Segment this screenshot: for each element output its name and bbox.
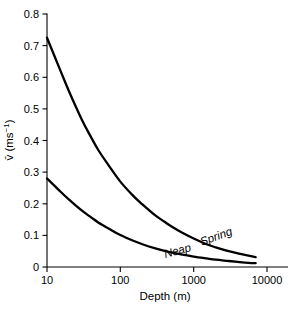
y-tick-label-6: 0.6 [24,71,39,83]
y-tick-label-1: 0.1 [24,229,39,241]
x-tick-label-10000: 10000 [252,274,283,286]
series-line-spring [47,38,256,257]
velocity-depth-chart: 0.8 0.7 0.6 0.5 0.4 0.3 0.2 0.1 0 10 100… [0,0,304,310]
y-axis-tick-labels: 0.8 0.7 0.6 0.5 0.4 0.3 0.2 0.1 0 [24,8,39,273]
x-tick-label-100: 100 [111,274,129,286]
y-axis-ticks [43,14,48,267]
y-tick-label-8: 0.8 [24,8,39,20]
y-tick-label-7: 0.7 [24,40,39,52]
x-axis-title: Depth (m) [139,290,190,302]
y-tick-label-2: 0.2 [24,198,39,210]
y-tick-label-5: 0.5 [24,103,39,115]
x-axis-tick-labels: 10 100 1000 10000 [41,274,282,286]
series-label-spring: Spring [198,225,234,248]
series-label-neap: Neap [163,241,193,260]
y-axis-title-group: v̄ (ms−1) [2,119,15,160]
y-axis-title: v̄ (ms−1) [2,119,15,160]
x-tick-label-10: 10 [41,274,53,286]
chart-axes [47,14,288,268]
y-tick-label-0: 0 [33,261,39,273]
y-tick-label-4: 0.4 [24,135,39,147]
chart-figure: 0.8 0.7 0.6 0.5 0.4 0.3 0.2 0.1 0 10 100… [0,0,304,310]
x-axis-ticks [47,267,267,272]
x-tick-label-1000: 1000 [181,274,205,286]
series-annotations: Spring Neap [163,225,235,260]
y-tick-label-3: 0.3 [24,166,39,178]
